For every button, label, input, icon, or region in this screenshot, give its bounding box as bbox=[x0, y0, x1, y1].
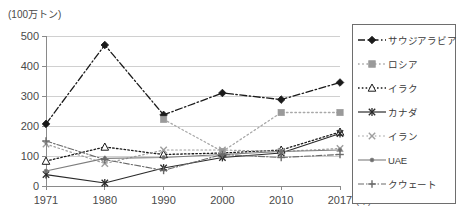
legend-item-ロシア[interactable]: ロシア bbox=[357, 52, 451, 76]
legend-item-カナダ[interactable]: カナダ bbox=[357, 100, 451, 124]
data-point-ロシア bbox=[337, 109, 343, 115]
data-point-サウジアラビア bbox=[336, 79, 344, 87]
x-tick-label: 2017 bbox=[328, 194, 352, 206]
filled-diamond-icon bbox=[368, 36, 376, 44]
star-icon bbox=[357, 105, 387, 119]
legend-label: UAE bbox=[387, 155, 407, 166]
legend-label: クウェート bbox=[387, 177, 437, 191]
data-point-UAE bbox=[279, 150, 283, 154]
chart-legend: サウジアラビアロシアイラクカナダイランUAEクウェート bbox=[352, 24, 456, 204]
legend-item-イラク[interactable]: イラク bbox=[357, 76, 451, 100]
data-point-ロシア bbox=[278, 109, 284, 115]
data-point-イラク bbox=[42, 157, 50, 164]
small-dot-icon bbox=[357, 153, 387, 167]
y-tick-label: 0 bbox=[33, 180, 39, 192]
x-tick-label: 2010 bbox=[269, 194, 293, 206]
x-tick-label: 2000 bbox=[210, 194, 234, 206]
data-point-UAE bbox=[44, 169, 48, 173]
legend-item-サウジアラビア[interactable]: サウジアラビア bbox=[357, 28, 451, 52]
legend-label: サウジアラビア bbox=[387, 33, 457, 47]
y-tick-label: 300 bbox=[21, 90, 39, 102]
chart-container: (100万トン) 0100200300400500197119801990200… bbox=[0, 0, 461, 220]
filled-square-icon bbox=[369, 61, 375, 67]
x-tick-label: 1990 bbox=[151, 194, 175, 206]
y-tick-label: 400 bbox=[21, 60, 39, 72]
hollow-triangle-icon bbox=[357, 81, 387, 95]
x-tick-label: 1971 bbox=[34, 194, 58, 206]
filled-square-icon bbox=[357, 57, 387, 71]
x-tick-label: 1980 bbox=[93, 194, 117, 206]
legend-label: ロシア bbox=[387, 57, 417, 71]
filled-diamond-icon bbox=[357, 33, 387, 47]
legend-item-イラン[interactable]: イラン bbox=[357, 124, 451, 148]
legend-label: イラク bbox=[387, 81, 417, 95]
y-tick-label: 100 bbox=[21, 150, 39, 162]
series-line-ロシア bbox=[164, 113, 340, 152]
legend-label: イラン bbox=[387, 129, 417, 143]
legend-item-クウェート[interactable]: クウェート bbox=[357, 172, 451, 196]
plus-icon bbox=[357, 177, 387, 191]
legend-label: カナダ bbox=[387, 105, 417, 119]
data-point-サウジアラビア bbox=[277, 96, 285, 104]
cross-icon bbox=[357, 129, 387, 143]
data-point-ロシア bbox=[160, 116, 166, 122]
legend-item-UAE[interactable]: UAE bbox=[357, 148, 451, 172]
small-dot-icon bbox=[370, 158, 374, 162]
data-point-イラク bbox=[101, 143, 109, 150]
data-point-UAE bbox=[162, 156, 166, 160]
y-tick-label: 200 bbox=[21, 120, 39, 132]
y-tick-label: 500 bbox=[21, 30, 39, 42]
